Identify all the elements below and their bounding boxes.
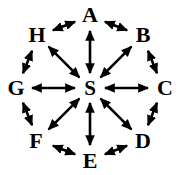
node-D[interactable]: D [134,130,152,152]
node-S[interactable]: S [83,77,97,99]
node-A[interactable]: A [81,4,99,26]
edge-G-H [23,51,32,73]
diagram-canvas: S A B C D E F G H [0,0,181,175]
node-C[interactable]: C [156,77,174,99]
node-H[interactable]: H [27,24,46,46]
edge-B-C [148,51,157,73]
edge-C-D [148,103,157,125]
node-G[interactable]: G [6,77,25,99]
edge-S-B [101,47,132,78]
edge-E-F [53,146,75,155]
node-E[interactable]: E [82,150,99,172]
edge-S-F [49,99,80,130]
node-B[interactable]: B [135,24,152,46]
node-F[interactable]: F [28,130,43,152]
edge-S-D [101,99,132,130]
edge-D-E [105,146,127,155]
edge-S-H [49,47,80,78]
edge-A-B [105,22,127,31]
edge-F-G [23,103,32,125]
edge-H-A [53,22,75,31]
